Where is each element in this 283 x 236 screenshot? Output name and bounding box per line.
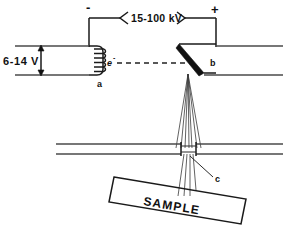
x-ray-beam-fan (176, 74, 201, 148)
anode-node-label: b (210, 58, 216, 68)
filament-coil (94, 49, 106, 72)
xray-tube-diagram: 15-100 kV - + (0, 0, 283, 236)
anode-wedge-shape (176, 44, 204, 76)
filament-voltage-label: 6-14 V (3, 55, 39, 67)
cathode-node-label: a (97, 79, 103, 89)
accelerating-voltage-label: 15-100 kV (131, 12, 182, 24)
electron-symbol-label: e (107, 58, 112, 68)
cathode-assembly (89, 46, 106, 75)
anode-polarity-label: + (211, 2, 219, 17)
coil-spine (104, 49, 106, 72)
housing-wall (56, 142, 283, 156)
sample-holder: SAMPLE (109, 177, 246, 224)
window-callout (190, 156, 213, 177)
electron-charge-label: - (113, 54, 116, 61)
beam-ray (188, 74, 197, 148)
window-leader-line (190, 156, 213, 177)
kv-bracket-left-icon (120, 12, 128, 24)
cathode-cup-outline (89, 46, 103, 75)
transmitted-ray (178, 154, 184, 196)
sample-label: SAMPLE (143, 194, 202, 217)
diagram-canvas: 15-100 kV - + (0, 0, 283, 236)
cathode-polarity-label: - (86, 0, 90, 15)
window-node-label: c (215, 174, 220, 184)
tube-envelope (15, 46, 283, 75)
